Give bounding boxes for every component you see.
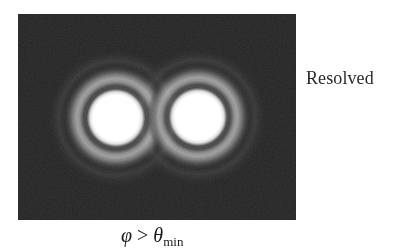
airy-diffraction-image [18, 14, 296, 220]
min-subscript: min [163, 234, 183, 249]
theta-symbol: θ [153, 224, 163, 246]
resolved-label: Resolved [306, 68, 374, 89]
film-grain-overlay [18, 14, 296, 220]
diffraction-pattern-graphic [18, 14, 296, 220]
phi-symbol: φ [121, 224, 132, 246]
angle-condition-caption: φ>θmin [121, 224, 183, 246]
greater-than-operator: > [137, 224, 148, 246]
